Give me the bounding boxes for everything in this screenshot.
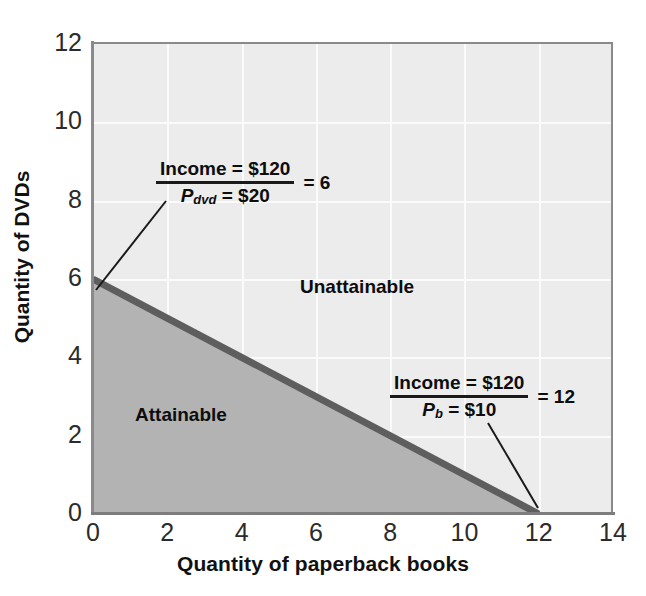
price-symbol: P	[422, 399, 435, 420]
fraction-result: = 12	[537, 386, 575, 408]
x-axis-line	[91, 512, 615, 515]
chart-figure: Attainable Unattainable Income = $120 Pd…	[0, 0, 646, 596]
x-tick-label: 12	[519, 518, 559, 547]
fraction-denominator: Pb = $10	[390, 398, 528, 421]
x-tick-label: 14	[593, 518, 633, 547]
x-tick-label: 8	[370, 518, 410, 547]
annotation-books-intercept: Income = $120 Pb = $10 = 12	[390, 372, 575, 421]
y-tick-label: 0	[30, 497, 82, 527]
fraction-result: = 6	[303, 172, 330, 194]
fraction-dvd: Income = $120 Pdvd = $20	[156, 158, 294, 207]
x-tick-label: 6	[296, 518, 336, 547]
x-tick-label: 2	[147, 518, 187, 547]
y-axis-title: Quantity of DVDs	[10, 107, 34, 407]
y-axis-line	[91, 41, 94, 515]
y-tick-label: 12	[30, 27, 82, 57]
fraction-numerator: Income = $120	[390, 372, 528, 395]
x-axis-title: Quantity of paperback books	[0, 552, 646, 576]
annotation-dvd-intercept: Income = $120 Pdvd = $20 = 6	[156, 158, 330, 207]
y-tick-label: 8	[30, 184, 82, 214]
y-tick-label: 2	[30, 419, 82, 449]
price-symbol: P	[181, 185, 194, 206]
fraction-numerator: Income = $120	[156, 158, 294, 181]
fraction-denominator: Pdvd = $20	[156, 184, 294, 207]
price-subscript: dvd	[193, 192, 216, 207]
price-value: = $10	[443, 399, 496, 420]
y-tick-label: 10	[30, 105, 82, 135]
x-tick-label: 4	[222, 518, 262, 547]
region-label-unattainable: Unattainable	[300, 276, 414, 298]
price-value: = $20	[216, 185, 269, 206]
fraction-books: Income = $120 Pb = $10	[390, 372, 528, 421]
region-label-attainable: Attainable	[135, 404, 227, 426]
x-tick-label: 10	[444, 518, 484, 547]
y-tick-label: 4	[30, 340, 82, 370]
y-tick-label: 6	[30, 262, 82, 292]
price-subscript: b	[435, 406, 443, 421]
